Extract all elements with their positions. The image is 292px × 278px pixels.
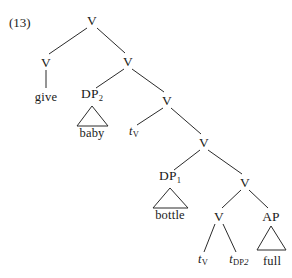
tree-node-label-v-6: V — [214, 209, 224, 224]
tree-node-baby: baby — [79, 127, 104, 140]
tree-node-label-v-4: V — [199, 135, 209, 150]
tree-branch-v-2-to-dp2 — [96, 69, 124, 88]
tree-triangles — [77, 106, 286, 250]
tree-branch-v-6-to-tdp2 — [223, 224, 236, 252]
tree-node-label-v-5: V — [240, 175, 250, 190]
syntax-tree-figure: (13) VVgiveVDP2babyVtVVDP1bottleVVtVtDP2… — [0, 0, 292, 278]
tree-node-v-root: V — [87, 14, 97, 27]
tree-node-label-dp2: DP — [81, 86, 99, 101]
tree-node-tdp2: tDP2 — [229, 253, 248, 270]
tree-node-label-dp1: DP — [159, 168, 177, 183]
tree-node-bottle: bottle — [155, 209, 185, 222]
tree-branch-v-root-to-v-left — [49, 28, 87, 54]
tree-node-label-bottle: bottle — [155, 208, 185, 222]
tree-node-dp1: DP1 — [159, 169, 181, 186]
tree-node-label-v-3: V — [162, 93, 172, 108]
constituent-triangle-ap — [257, 226, 286, 250]
tree-node-label-ap: AP — [262, 209, 280, 224]
constituent-triangle-dp1 — [153, 188, 188, 208]
tree-node-full: full — [263, 255, 281, 268]
tree-node-subscript-index-tdp2: 2 — [244, 257, 249, 267]
tree-node-subscript-tdp2: DP — [233, 257, 244, 267]
tree-node-v-6: V — [214, 210, 224, 223]
tree-branch-v-4-to-v-5 — [208, 150, 242, 174]
tree-node-v-3: V — [162, 94, 172, 107]
tree-branch-v-3-to-v-4 — [171, 108, 201, 134]
tree-node-label-v-2: V — [123, 54, 133, 69]
tree-branch-v-6-to-tv-2 — [204, 224, 215, 252]
tree-node-v-2: V — [123, 55, 133, 68]
tree-node-give: give — [35, 91, 57, 104]
tree-node-subscript-tv-1: V — [133, 129, 139, 139]
constituent-triangle-dp2 — [77, 106, 108, 126]
tree-node-label-give: give — [35, 90, 57, 104]
tree-node-v-5: V — [240, 176, 250, 189]
tree-node-ap: AP — [262, 210, 280, 223]
tree-node-label-v-root: V — [87, 13, 97, 28]
tree-branch-v-5-to-v-6 — [222, 190, 241, 208]
tree-branches-svg — [0, 0, 292, 278]
tree-node-dp2: DP2 — [81, 87, 103, 104]
tree-branch-v-root-to-v-2 — [97, 28, 125, 53]
tree-node-tv-1: tV — [129, 125, 139, 141]
tree-node-label-full: full — [263, 254, 281, 268]
tree-node-subscript-dp2: 2 — [99, 93, 103, 103]
tree-node-tv-2: tV — [198, 253, 208, 269]
tree-branch-v-2-to-v-3 — [132, 69, 164, 92]
tree-node-v-4: V — [199, 136, 209, 149]
tree-branch-v-4-to-dp1 — [174, 150, 200, 170]
tree-node-subscript-tv-2: V — [202, 257, 208, 267]
tree-node-subscript-dp1: 1 — [177, 175, 181, 185]
tree-branch-v-3-to-tv-1 — [137, 108, 163, 125]
tree-branch-v-5-to-ap — [249, 190, 268, 208]
tree-node-label-v-left: V — [41, 55, 51, 70]
tree-node-v-left: V — [41, 56, 51, 69]
tree-node-label-baby: baby — [79, 126, 104, 140]
